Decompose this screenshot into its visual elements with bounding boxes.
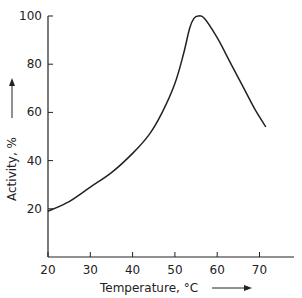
y-tick-label: 80: [27, 57, 42, 71]
y-tick-label: 20: [27, 202, 42, 216]
axes: [48, 16, 294, 257]
activity-curve: [48, 16, 266, 211]
x-tick-label: 60: [210, 263, 225, 277]
x-axis-label: Temperature, °C: [99, 281, 198, 295]
x-tick-label: 70: [252, 263, 267, 277]
x-tick-label: 20: [40, 263, 55, 277]
x-tick-label: 50: [167, 263, 182, 277]
y-tick-label: 100: [19, 9, 42, 23]
y-tick-label: 40: [27, 154, 42, 168]
y-tick-label: 60: [27, 105, 42, 119]
x-arrow-icon: [212, 285, 252, 291]
y-arrow-icon: [9, 78, 15, 118]
x-tick-label: 40: [125, 263, 140, 277]
y-axis-label: Activity, %: [5, 137, 19, 201]
x-tick-label: 30: [83, 263, 98, 277]
chart: 20304050607020406080100 Temperature, °C …: [0, 0, 302, 298]
